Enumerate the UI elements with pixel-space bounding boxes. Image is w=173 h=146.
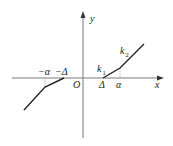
slope-k2-label: k 2 xyxy=(120,45,129,58)
delta-pos-label: Δ xyxy=(98,79,105,90)
y-axis xyxy=(81,11,86,138)
svg-text:k: k xyxy=(97,63,102,74)
svg-text:1: 1 xyxy=(103,69,106,76)
alpha-neg-label: −α xyxy=(38,66,51,77)
slope-k1-label: k 1 xyxy=(97,63,106,76)
x-axis xyxy=(12,76,164,81)
y-axis-label: y xyxy=(89,13,95,24)
x-axis-label: x xyxy=(154,79,160,90)
svg-text:2: 2 xyxy=(126,51,129,58)
alpha-pos-label: α xyxy=(116,79,122,90)
svg-text:k: k xyxy=(120,45,125,56)
delta-neg-label: −Δ xyxy=(55,66,68,77)
curve-negative-branch xyxy=(24,78,64,110)
y-axis-arrow-icon xyxy=(81,11,86,18)
dead-zone-diagram: y x O Δ α −α −Δ k 1 k 2 xyxy=(0,0,173,146)
origin-label: O xyxy=(73,79,80,90)
